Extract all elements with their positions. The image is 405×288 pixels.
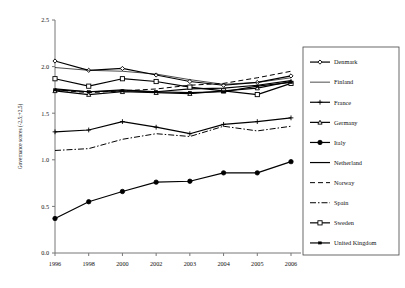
legend: DenmarkFinlandFranceGermanyItalyNetherla… xyxy=(303,47,399,255)
data-point xyxy=(289,159,293,163)
series-denmark xyxy=(53,59,293,87)
y-tick-label: 2.0 xyxy=(41,63,49,70)
data-point xyxy=(154,180,158,184)
legend-label-germany: Germany xyxy=(334,119,358,126)
data-point xyxy=(54,89,57,91)
x-tick-label: 1998 xyxy=(83,260,95,267)
legend-label-spain: Spain xyxy=(334,199,349,206)
data-point xyxy=(255,92,259,96)
data-point xyxy=(121,90,124,92)
data-point xyxy=(188,85,192,89)
data-point xyxy=(256,85,259,87)
x-tick-label: 2000 xyxy=(116,260,128,267)
legend-label-denmark: Denmark xyxy=(334,58,358,65)
series-line xyxy=(55,118,291,134)
data-point xyxy=(188,92,191,94)
data-point xyxy=(53,216,57,220)
legend-marker xyxy=(319,242,322,244)
y-axis-title: Governance scores (-2,5;+2,5) xyxy=(17,103,24,169)
data-point xyxy=(155,91,158,93)
x-tick-label: 2003 xyxy=(184,260,196,267)
y-tick-label: 1.0 xyxy=(41,156,49,163)
data-point xyxy=(87,91,90,93)
series-line xyxy=(55,162,291,219)
data-point xyxy=(120,77,124,81)
legend-label-united-kingdom: United Kingdom xyxy=(334,239,377,246)
line-chart: 0.00.51.01.52.02.5Governance scores (-2,… xyxy=(0,0,405,288)
legend-marker xyxy=(318,221,322,225)
data-point xyxy=(222,91,225,93)
legend-label-italy: Italy xyxy=(334,139,346,146)
x-tick-label: 2006 xyxy=(285,260,297,267)
legend-label-france: France xyxy=(334,99,351,106)
legend-marker xyxy=(318,140,322,144)
data-point xyxy=(120,66,124,70)
x-tick-label: 2005 xyxy=(251,260,263,267)
legend-label-norway: Norway xyxy=(334,179,355,186)
y-tick-label: 0.5 xyxy=(41,203,49,210)
data-point xyxy=(87,84,91,88)
data-point xyxy=(154,79,158,83)
data-point xyxy=(188,179,192,183)
y-tick-label: 0.0 xyxy=(41,249,49,256)
data-point xyxy=(87,200,91,204)
legend-label-sweden: Sweden xyxy=(334,219,355,226)
legend-label-finland: Finland xyxy=(334,78,354,85)
data-point xyxy=(290,81,293,83)
chart-figure: 0.00.51.01.52.02.5Governance scores (-2,… xyxy=(0,0,405,288)
y-tick-label: 2.5 xyxy=(41,16,49,23)
x-tick-label: 1996 xyxy=(49,260,61,267)
data-point xyxy=(53,77,57,81)
series-italy xyxy=(53,159,293,220)
data-point xyxy=(120,189,124,193)
x-tick-label: 2004 xyxy=(217,260,229,267)
series-france xyxy=(53,115,294,136)
data-point xyxy=(255,171,259,175)
data-point xyxy=(53,59,57,63)
data-point xyxy=(154,73,158,77)
x-tick-label: 2002 xyxy=(150,260,162,267)
data-point xyxy=(289,74,293,78)
data-point xyxy=(221,171,225,175)
legend-label-netherland: Netherland xyxy=(334,159,363,166)
y-tick-label: 1.5 xyxy=(41,110,49,117)
